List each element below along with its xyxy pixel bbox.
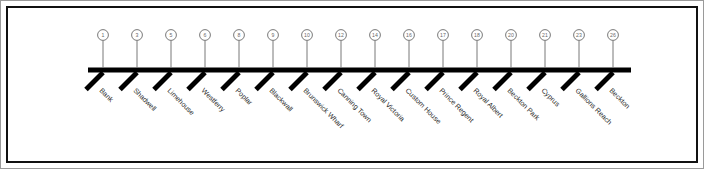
station-label: Royal Albert — [472, 87, 505, 120]
rail-tick — [528, 73, 545, 90]
station-number: 23 — [576, 32, 582, 38]
station-markers-group: 13568910121416171820212326 — [98, 30, 619, 41]
rail-tick — [562, 73, 579, 90]
station-number: 6 — [204, 32, 207, 38]
station-number: 10 — [304, 32, 310, 38]
rail-tick — [460, 73, 477, 90]
rail-tick — [324, 73, 341, 90]
rail-tick — [426, 73, 443, 90]
rail-tick — [494, 73, 511, 90]
rail-tick — [120, 73, 137, 90]
rail-ticks-group — [86, 73, 613, 90]
station-number: 18 — [474, 32, 480, 38]
station-number: 3 — [136, 32, 139, 38]
station-number: 8 — [238, 32, 241, 38]
station-number: 5 — [170, 32, 173, 38]
station-number: 16 — [406, 32, 412, 38]
figure-root: 13568910121416171820212326 BankShadwellL… — [0, 0, 704, 169]
station-label: Royal Victoria — [370, 87, 407, 124]
station-number: 21 — [542, 32, 548, 38]
rail-tick — [188, 73, 205, 90]
station-label: Canning Town — [336, 87, 373, 124]
rail-tick — [256, 73, 273, 90]
station-number: 9 — [272, 32, 275, 38]
station-label: Poplar — [234, 87, 255, 108]
station-label: Cyprus — [540, 87, 562, 109]
station-number: 20 — [508, 32, 514, 38]
station-label: Prince Regent — [438, 87, 475, 124]
station-number: 12 — [338, 32, 344, 38]
station-label: Beckton Park — [506, 87, 542, 123]
rail-tick — [596, 73, 613, 90]
rail-tick — [358, 73, 375, 90]
station-label: Limehouse — [166, 87, 196, 117]
station-label: Blackwall — [268, 87, 295, 114]
station-label: Custom House — [404, 87, 443, 126]
rail-tick — [290, 73, 307, 90]
station-label: Westferry — [200, 87, 227, 114]
station-label: Shadwell — [132, 87, 158, 113]
station-labels-group: BankShadwellLimehouseWestferryPoplarBlac… — [98, 87, 632, 130]
station-number: 1 — [102, 32, 105, 38]
rail-tick — [392, 73, 409, 90]
station-label: Gallions Reach — [574, 87, 614, 127]
diagram-canvas: 13568910121416171820212326 BankShadwellL… — [0, 0, 704, 169]
station-label: Beckton — [608, 87, 632, 111]
station-label: Bank — [98, 87, 115, 104]
rail-tick — [154, 73, 171, 90]
station-number: 26 — [610, 32, 616, 38]
station-number: 14 — [372, 32, 378, 38]
station-number: 17 — [440, 32, 446, 38]
rail-tick — [86, 73, 103, 90]
station-stems-group — [103, 40, 613, 67]
rail-line-diagram-svg: 13568910121416171820212326 BankShadwellL… — [0, 0, 704, 169]
rail-tick — [222, 73, 239, 90]
